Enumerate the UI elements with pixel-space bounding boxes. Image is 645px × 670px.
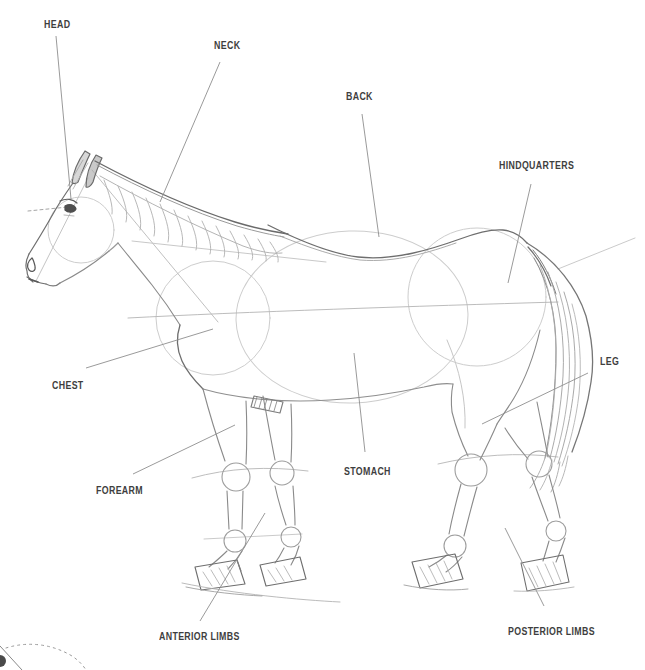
label-leg: LEG — [600, 357, 619, 367]
label-back: BACK — [346, 92, 373, 102]
label-stomach: STOMACH — [344, 467, 391, 477]
labels-layer: HEADNECKBACKHINDQUARTERSCHESTSTOMACHLEGF… — [0, 0, 645, 670]
label-hindquarters: HINDQUARTERS — [499, 161, 574, 171]
book-page: HEADNECKBACKHINDQUARTERSCHESTSTOMACHLEGF… — [0, 0, 645, 670]
label-forearm: FOREARM — [96, 486, 143, 496]
label-neck: NECK — [214, 41, 240, 51]
label-head: HEAD — [44, 20, 70, 30]
label-chest: CHEST — [52, 381, 84, 391]
label-posterior_limbs: POSTERIOR LIMBS — [508, 627, 595, 637]
label-anterior_limbs: ANTERIOR LIMBS — [159, 632, 240, 642]
